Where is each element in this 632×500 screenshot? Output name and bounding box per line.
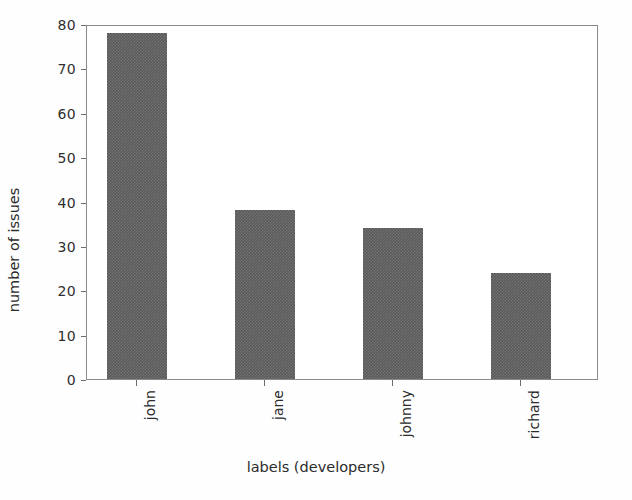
x-axis-ticks: johnjanejohnnyrichard (0, 380, 632, 470)
y-tick-label: 10 (58, 328, 76, 344)
x-tick-mark (520, 380, 521, 386)
bar-chart-figure: 01020304050607080 number of issues johnj… (0, 0, 632, 500)
y-tick-label: 60 (58, 106, 76, 122)
x-axis-title: labels (developers) (247, 459, 386, 475)
x-tick-label: john (142, 390, 158, 420)
x-tick-label: richard (526, 390, 542, 439)
bars-layer (87, 26, 597, 379)
x-tick-mark (264, 380, 265, 386)
bar (235, 210, 295, 379)
y-tick-label: 70 (58, 61, 76, 77)
bar (491, 273, 551, 380)
bar (363, 228, 423, 379)
x-tick-mark (136, 380, 137, 386)
x-tick-label: johnny (398, 390, 414, 437)
bar (107, 33, 167, 379)
y-tick-label: 20 (58, 283, 76, 299)
x-tick-mark (392, 380, 393, 386)
y-axis-title: number of issues (6, 188, 22, 313)
y-tick-label: 50 (58, 150, 76, 166)
y-tick-label: 30 (58, 239, 76, 255)
y-tick-label: 40 (58, 195, 76, 211)
plot-area (86, 25, 598, 380)
x-tick-label: jane (270, 390, 286, 420)
y-tick-label: 80 (58, 17, 76, 33)
